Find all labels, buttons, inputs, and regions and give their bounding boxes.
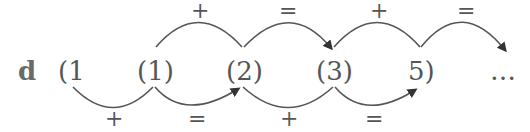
bottom-op-4: = — [365, 108, 383, 130]
top-arc-1 — [156, 23, 242, 48]
bottom-op-1: + — [105, 108, 123, 130]
bottom-arc-2 — [155, 87, 238, 105]
top-arc-4 — [421, 22, 505, 50]
top-op-3: + — [370, 0, 388, 22]
top-arc-2 — [244, 23, 331, 48]
arcs — [0, 0, 530, 132]
top-op-2: = — [279, 0, 297, 22]
bottom-arc-4 — [335, 87, 415, 105]
top-op-4: = — [457, 0, 475, 22]
top-arc-3 — [334, 23, 420, 48]
top-op-1: + — [191, 0, 209, 22]
bottom-arc-3 — [243, 87, 333, 108]
bottom-op-3: + — [280, 108, 298, 130]
bottom-op-2: = — [188, 108, 206, 130]
bottom-arc-1 — [73, 87, 153, 108]
